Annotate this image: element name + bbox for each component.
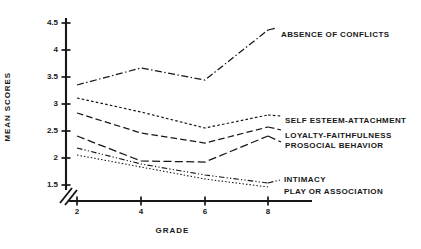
series-line-intimacy bbox=[77, 148, 268, 183]
x-axis bbox=[69, 197, 312, 206]
label-leader-lines bbox=[268, 28, 281, 183]
y-tick-label-2: 2 bbox=[32, 154, 58, 162]
series-label-play-or-association: PLAY OR ASSOCIATION bbox=[284, 188, 383, 196]
series-line-play-or-association bbox=[77, 155, 268, 187]
y-tick-label-3-5: 3.5 bbox=[32, 73, 58, 81]
y-tick-label-1-5: 1.5 bbox=[32, 181, 58, 189]
x-axis-title: GRADE bbox=[0, 226, 345, 235]
series-line-absence-of-conflicts bbox=[77, 30, 268, 85]
y-tick-label-3: 3 bbox=[32, 100, 58, 108]
y-tick-label-4: 4 bbox=[32, 46, 58, 54]
x-tick-label-6: 6 bbox=[195, 208, 215, 216]
x-tick-label-8: 8 bbox=[258, 208, 278, 216]
y-tick-label-4-5: 4.5 bbox=[32, 19, 58, 27]
y-tick-label-2-5: 2.5 bbox=[32, 127, 58, 135]
series-label-loyalty-faithfulness: LOYALTY-FAITHFULNESS bbox=[285, 132, 392, 140]
series-label-prosocial-behavior: PROSOCIAL BEHAVIOR bbox=[285, 142, 383, 150]
series-label-self-esteem-attachment: SELF ESTEEM-ATTACHMENT bbox=[285, 117, 406, 125]
y-axis-break-marker bbox=[60, 188, 77, 205]
series-label-absence-of-conflicts: ABSENCE OF CONFLICTS bbox=[281, 31, 389, 39]
x-tick-label-4: 4 bbox=[131, 208, 151, 216]
chart-figure: 4.5 4 3.5 3 2.5 2 1.5 2 4 6 8 MEAN SCORE… bbox=[0, 0, 421, 249]
series-line-prosocial-behavior bbox=[77, 136, 268, 162]
series-label-intimacy: INTIMACY bbox=[284, 176, 326, 184]
series-line-loyalty-faithfulness bbox=[77, 113, 268, 143]
x-tick-label-2: 2 bbox=[67, 208, 87, 216]
series-line-self-esteem-attachment bbox=[77, 98, 268, 128]
y-axis bbox=[62, 18, 71, 190]
y-axis-title: MEAN SCORES bbox=[4, 72, 16, 141]
